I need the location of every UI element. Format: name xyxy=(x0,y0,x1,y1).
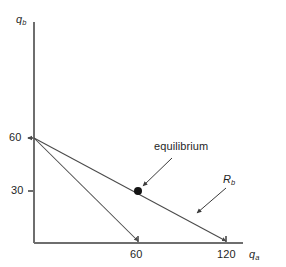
chart-canvas xyxy=(0,0,286,267)
x-tick-label-120: 120 xyxy=(217,249,236,260)
x-axis-label: qa xyxy=(249,249,259,260)
y-axis-label-subscript: b xyxy=(22,18,26,27)
y-tick-label-60: 60 xyxy=(9,132,21,143)
rb-annotation-arrow xyxy=(197,188,226,213)
reaction-curve-label-text: R xyxy=(223,173,231,185)
y-axis-label: qb xyxy=(16,14,26,25)
economics-reaction-function-chart: qb 60 30 60 120 qa equilibrium Rb xyxy=(0,0,286,267)
reaction-line-rb xyxy=(34,138,226,241)
y-tick-label-30: 30 xyxy=(11,185,23,196)
reaction-curve-label-subscript: b xyxy=(231,178,235,187)
reaction-curve-label: Rb xyxy=(223,174,235,185)
equilibrium-annotation-arrow xyxy=(143,158,172,186)
x-tick-label-60: 60 xyxy=(130,249,142,260)
x-axis-label-subscript: a xyxy=(255,253,259,262)
equilibrium-point-marker xyxy=(134,187,142,195)
equilibrium-label: equilibrium xyxy=(154,141,208,152)
steep-reaction-line xyxy=(34,138,138,241)
